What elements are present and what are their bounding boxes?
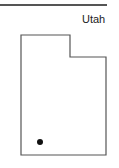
utah-map <box>0 0 119 168</box>
utah-state-outline <box>21 35 106 155</box>
location-marker-icon <box>37 139 43 145</box>
